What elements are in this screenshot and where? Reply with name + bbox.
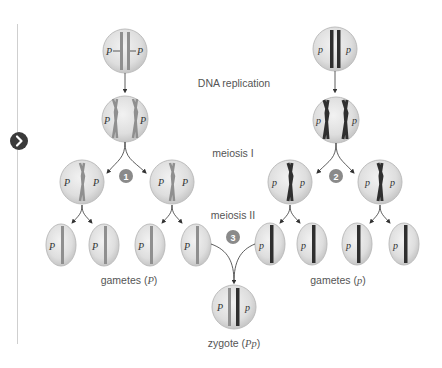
cell-PP-replicated: P P — [102, 96, 148, 142]
meiosis-diagram: P P P P P P P P P P P — [0, 0, 442, 368]
svg-text:p: p — [258, 240, 264, 251]
svg-text:p: p — [389, 177, 395, 188]
gamete-p-1: p — [255, 223, 285, 265]
svg-text:p: p — [345, 44, 351, 55]
cell-P-meiosis1-a: P P — [60, 160, 104, 204]
cell-pp-initial: p p — [313, 27, 357, 71]
svg-text:1: 1 — [123, 172, 128, 182]
step-badge-3: 3 — [226, 230, 240, 244]
gamete-P-4: P — [181, 224, 211, 266]
gametes-P-label: gametes (P) — [101, 274, 158, 286]
svg-text:P: P — [103, 115, 110, 126]
svg-text:2: 2 — [333, 172, 338, 182]
svg-text:P: P — [157, 177, 164, 188]
cell-p-meiosis1-b: p p — [358, 160, 402, 204]
label-suffix: ) — [154, 274, 158, 286]
stage-label-dna-replication: DNA replication — [198, 77, 270, 89]
zygote-Pp: P p — [212, 285, 256, 329]
gametes-P-prefix: gametes ( — [101, 274, 148, 286]
gamete-p-2: p — [297, 223, 327, 265]
label-suffix: ) — [362, 274, 366, 286]
gametes-p-label: gametes (p) — [310, 274, 365, 286]
gamete-P-2: P — [89, 224, 119, 266]
svg-text:P: P — [183, 241, 190, 252]
svg-text:p: p — [351, 115, 357, 126]
label-suffix: ) — [257, 337, 261, 349]
svg-text:3: 3 — [230, 233, 235, 243]
step-badge-2: 2 — [329, 169, 343, 183]
svg-text:p: p — [244, 302, 250, 313]
svg-text:p: p — [364, 177, 370, 188]
svg-text:P: P — [137, 241, 144, 252]
gamete-p-4: p — [389, 223, 419, 265]
svg-text:P: P — [63, 177, 70, 188]
svg-text:P: P — [48, 241, 55, 252]
gamete-P-3: P — [135, 224, 165, 266]
svg-text:P: P — [136, 46, 143, 57]
zygote-genotype: Pp — [245, 338, 257, 349]
gamete-p-3: p — [342, 223, 372, 265]
svg-text:p: p — [300, 240, 306, 251]
cell-pp-replicated: p p — [313, 97, 359, 143]
gamete-P-1: P — [46, 224, 76, 266]
zygote-label: zygote (Pp) — [208, 337, 261, 349]
cell-P-meiosis1-b: P P — [150, 160, 194, 204]
svg-text:p: p — [345, 240, 351, 251]
svg-text:p: p — [299, 177, 305, 188]
svg-text:P: P — [216, 302, 223, 313]
stage-label-meiosis-1: meiosis I — [212, 147, 253, 159]
cell-p-meiosis1-a: p p — [268, 160, 312, 204]
svg-text:P: P — [105, 46, 112, 57]
svg-text:p: p — [271, 177, 277, 188]
svg-text:P: P — [92, 177, 99, 188]
svg-text:P: P — [181, 177, 188, 188]
step-badge-1: 1 — [119, 169, 133, 183]
svg-text:P: P — [91, 241, 98, 252]
svg-text:p: p — [315, 115, 321, 126]
gametes-p-prefix: gametes ( — [310, 274, 357, 286]
svg-text:P: P — [139, 115, 146, 126]
svg-text:p: p — [392, 240, 398, 251]
stage-label-meiosis-2: meiosis II — [211, 209, 255, 221]
svg-text:p: p — [317, 44, 323, 55]
cell-PP-initial: P P — [103, 29, 147, 73]
zygote-prefix: zygote ( — [208, 337, 245, 349]
